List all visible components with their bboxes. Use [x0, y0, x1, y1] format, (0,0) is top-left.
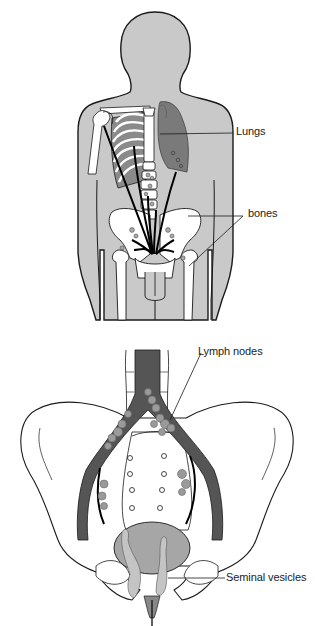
label-lungs: Lungs — [236, 125, 265, 137]
label-lymph-nodes: Lymph nodes — [198, 345, 263, 357]
anatomy-figure — [0, 0, 315, 626]
lymph-nodes-leader — [170, 353, 201, 420]
ribcage — [111, 112, 146, 188]
label-bones: bones — [248, 207, 277, 219]
label-seminal-vesicles: Seminal vesicles — [226, 571, 306, 583]
